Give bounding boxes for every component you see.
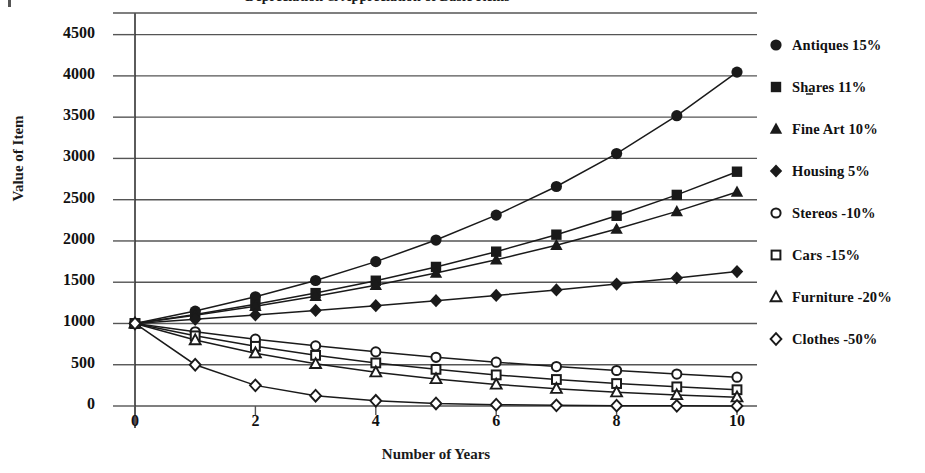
data-point-marker — [671, 110, 682, 121]
legend-marker-open-triangle-icon — [766, 287, 786, 307]
data-point-marker — [611, 148, 622, 159]
data-point-marker — [371, 347, 380, 356]
y-tick-label: 3500 — [5, 106, 95, 124]
y-tick-label: 1000 — [5, 312, 95, 330]
legend-label: Furniture -20% — [792, 289, 892, 306]
legend-item[interactable]: Cars -15% — [766, 234, 924, 276]
data-point-marker — [772, 251, 781, 260]
data-point-marker — [612, 366, 621, 375]
legend-item[interactable]: Antiques 15% — [766, 24, 924, 66]
legend-label: Housing 5% — [792, 163, 870, 180]
legend-marker-open-circle-icon — [766, 203, 786, 223]
y-tick-label: 2000 — [5, 230, 95, 248]
data-point-marker — [770, 123, 782, 134]
data-point-marker — [552, 362, 561, 371]
legend-item[interactable]: Housing 5% — [766, 150, 924, 192]
data-point-marker — [370, 256, 381, 267]
data-point-marker — [770, 164, 782, 177]
legend-label: Shares 11% — [792, 79, 866, 96]
y-tick-label: 4000 — [5, 65, 95, 83]
y-tick-label: 0 — [5, 395, 95, 413]
legend-item[interactable]: Shares 11% — [766, 66, 924, 108]
data-point-marker — [672, 369, 681, 378]
legend-item[interactable]: Stereos -10% — [766, 192, 924, 234]
legend-marker-open-square-icon — [766, 245, 786, 265]
data-point-marker — [370, 299, 382, 312]
data-point-marker — [732, 373, 741, 382]
x-tick-label: 6 — [466, 412, 526, 430]
chart-page: Depreciation & Appreciation of Basic Ite… — [0, 0, 925, 473]
data-point-marker — [732, 167, 742, 177]
data-point-marker — [430, 234, 441, 245]
data-point-marker — [491, 210, 502, 221]
data-point-marker — [551, 229, 561, 239]
y-tick-label: 1500 — [5, 271, 95, 289]
data-point-marker — [430, 294, 442, 307]
legend-marker-filled-square-icon — [766, 77, 786, 97]
data-point-marker — [491, 399, 502, 411]
legend-label: Stereos -10% — [792, 205, 876, 222]
y-tick-label: 4500 — [5, 24, 95, 42]
data-point-marker — [550, 283, 562, 296]
x-tick-label: 2 — [225, 412, 285, 430]
data-point-marker — [431, 373, 442, 383]
data-point-marker — [771, 208, 780, 217]
legend-item[interactable]: Furniture -20% — [766, 276, 924, 318]
legend-marker-open-diamond-icon — [766, 329, 786, 349]
data-point-marker — [770, 39, 781, 50]
data-point-marker — [771, 333, 782, 345]
x-tick-label: 4 — [346, 412, 406, 430]
data-point-marker — [611, 211, 621, 221]
data-point-marker — [731, 186, 743, 197]
stray-artifact-dash — [806, 93, 813, 95]
y-tick-label: 2500 — [5, 189, 95, 207]
data-point-marker — [370, 395, 381, 407]
legend-marker-filled-diamond-icon — [766, 161, 786, 181]
legend-label: Cars -15% — [792, 247, 860, 264]
data-point-marker — [492, 358, 501, 367]
data-point-marker — [731, 265, 743, 278]
data-point-marker — [309, 304, 321, 317]
legend-label: Clothes -50% — [792, 331, 877, 348]
legend-item[interactable]: Fine Art 10% — [766, 108, 924, 150]
series-line — [135, 72, 737, 323]
data-point-marker — [551, 400, 562, 412]
data-point-marker — [610, 278, 622, 291]
data-point-marker — [310, 390, 321, 402]
data-point-marker — [490, 289, 502, 302]
legend-label: Fine Art 10% — [792, 121, 878, 138]
data-point-marker — [672, 190, 682, 200]
chart-legend: Antiques 15%Shares 11%Fine Art 10%Housin… — [766, 24, 924, 360]
data-point-marker — [771, 291, 782, 301]
legend-marker-filled-circle-icon — [766, 35, 786, 55]
series-markers — [129, 66, 743, 411]
data-point-marker — [311, 341, 320, 350]
legend-item[interactable]: Clothes -50% — [766, 318, 924, 360]
y-tick-label: 3000 — [5, 147, 95, 165]
y-tick-label: 500 — [5, 354, 95, 372]
x-tick-label: 0 — [105, 412, 165, 430]
data-point-marker — [611, 400, 622, 412]
data-point-marker — [431, 353, 440, 362]
stray-artifact-mark — [8, 0, 11, 7]
data-point-marker — [310, 275, 321, 286]
tick-marks — [113, 35, 737, 415]
data-point-marker — [731, 66, 742, 77]
data-point-marker — [771, 82, 781, 92]
data-point-marker — [250, 380, 261, 392]
data-point-marker — [551, 181, 562, 192]
data-point-marker — [190, 359, 201, 371]
legend-marker-filled-triangle-icon — [766, 119, 786, 139]
x-tick-label: 8 — [587, 412, 647, 430]
data-point-marker — [671, 400, 682, 412]
x-tick-label: 10 — [707, 412, 767, 430]
gridlines — [135, 35, 757, 406]
data-point-marker — [431, 398, 442, 410]
legend-label: Antiques 15% — [792, 37, 881, 54]
